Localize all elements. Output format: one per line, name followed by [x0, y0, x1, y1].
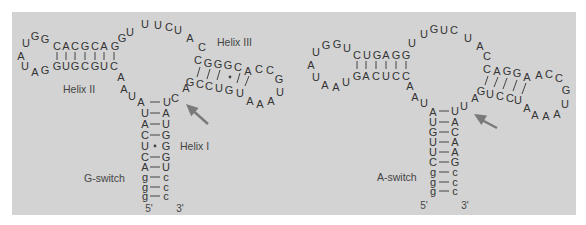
- a-switch-nucleotide: G: [322, 40, 331, 51]
- a-switch-nucleotide: U: [486, 89, 494, 100]
- g-switch-nucleotide: C: [194, 55, 202, 66]
- g-switch-nucleotide: C: [255, 64, 263, 75]
- g-switch-3prime-label: 3': [176, 203, 183, 214]
- g-switch-nucleotide: A: [120, 84, 127, 95]
- a-switch-nucleotide: C: [353, 50, 361, 61]
- a-switch-nucleotide: C: [392, 71, 400, 82]
- a-switch-5prime-label: 5': [420, 200, 427, 211]
- a-switch-nucleotide: A: [531, 110, 538, 121]
- a-switch-nucleotide: A: [471, 93, 478, 104]
- g-switch-nucleotide: C: [171, 93, 179, 104]
- g-switch-nucleotide: C: [53, 41, 61, 52]
- g-switch-nucleotide: U: [62, 61, 70, 72]
- a-switch-nucleotide: G: [503, 66, 512, 77]
- g-switch-nucleotide: U: [215, 83, 223, 94]
- a-switch-nucleotide: C: [450, 25, 458, 36]
- a-switch-nucleotide: U: [312, 72, 320, 83]
- g-switch-nucleotide: U: [236, 88, 244, 99]
- g-switch-nucleotide: G: [71, 61, 80, 72]
- g-switch-nucleotide: G: [275, 74, 284, 85]
- g-switch-nucleotide: C: [71, 41, 79, 52]
- a-switch-nucleotide: A: [523, 103, 530, 114]
- a-switch-nucleotide: C: [506, 93, 514, 104]
- a-switch-nucleotide: A: [411, 92, 418, 103]
- g-switch-nucleotide: A: [267, 96, 274, 107]
- g-switch-nucleotide: A: [117, 72, 124, 83]
- g-switch-nucleotide: U: [21, 61, 29, 72]
- g-switch-nucleotide: A: [31, 67, 38, 78]
- g-switch-nucleotide: U: [174, 25, 182, 36]
- a-switch-nucleotide: C: [496, 91, 504, 102]
- g-switch-nucleotide: C: [81, 61, 89, 72]
- g-switch-nucleotide: A: [244, 66, 251, 77]
- g-switch-nucleotide: A: [182, 83, 189, 94]
- a-switch-nucleotide: G: [333, 39, 342, 50]
- g-switch-nucleotide: g: [142, 191, 148, 202]
- a-switch-nucleotide: G: [353, 71, 362, 82]
- a-switch-nucleotide: C: [555, 73, 563, 84]
- a-switch-nucleotide: A: [382, 50, 389, 61]
- g-switch-nucleotide: A: [186, 33, 193, 44]
- g-switch-nucleotide: C: [198, 42, 206, 53]
- a-switch-nucleotide: C: [483, 51, 491, 62]
- helix-iii-label: Helix III: [217, 36, 252, 48]
- g-switch-nucleotide: G: [204, 58, 213, 69]
- a-switch-nucleotide: U: [420, 98, 428, 109]
- g-switch-nucleotide: C: [91, 41, 99, 52]
- g-switch-nucleotide: G: [31, 31, 40, 42]
- a-switch-nucleotide: U: [408, 38, 416, 49]
- a-switch-nucleotide: C: [545, 69, 553, 80]
- g-switch-nucleotide: A: [62, 41, 69, 52]
- g-switch-nucleotide: A: [246, 96, 253, 107]
- g-switch-nucleotide: C: [196, 79, 204, 90]
- g-switch-nucleotide: G: [224, 60, 233, 71]
- a-switch-nucleotide: G: [373, 50, 382, 61]
- g-switch-label: G-switch: [84, 172, 125, 184]
- a-switch-label: A-switch: [377, 171, 417, 183]
- g-switch-nucleotide: U: [128, 91, 136, 102]
- a-switch-nucleotide: g: [430, 186, 436, 197]
- a-switch-nucleotide: A: [307, 60, 314, 71]
- a-switch-nucleotide: U: [342, 77, 350, 88]
- g-switch-nucleotide: c: [163, 191, 169, 202]
- g-switch-nucleotide: U: [154, 20, 162, 31]
- g-switch-nucleotide: A: [100, 41, 107, 52]
- g-switch-nucleotide: C: [165, 22, 173, 33]
- a-switch-nucleotide: U: [561, 99, 569, 110]
- g-switch-5prime-label: 5': [145, 203, 152, 214]
- a-switch-nucleotide: G: [402, 50, 411, 61]
- a-switch-nucleotide: U: [312, 47, 320, 58]
- g-switch-nucleotide: U: [126, 27, 134, 38]
- a-switch-nucleotide: c: [452, 186, 458, 197]
- g-switch-nucleotide: G: [41, 65, 50, 76]
- g-switch-nucleotide: U: [141, 19, 149, 30]
- g-switch-nucleotide: U: [22, 38, 30, 49]
- a-switch-nucleotide: A: [535, 70, 542, 81]
- g-switch-nucleotide: G: [91, 61, 100, 72]
- a-switch-nucleotide: A: [493, 66, 500, 77]
- a-switch-nucleotide: G: [513, 68, 522, 79]
- a-switch-nucleotide: G: [430, 24, 439, 35]
- a-switch-nucleotide: A: [542, 111, 549, 122]
- a-switch-nucleotide: U: [382, 71, 390, 82]
- a-switch-nucleotide: G: [562, 85, 571, 96]
- helix-ii-label: Helix II: [63, 83, 95, 95]
- helix-i-label: Helix I: [180, 140, 209, 152]
- a-switch-nucleotide: U: [343, 43, 351, 54]
- g-switch-nucleotide: A: [256, 99, 263, 110]
- g-switch-nucleotide: G: [225, 85, 234, 96]
- g-switch-nucleotide: G: [81, 41, 90, 52]
- a-switch-nucleotide: A: [332, 82, 339, 93]
- g-switch-nucleotide: C: [234, 62, 242, 73]
- g-switch-nucleotide: G: [214, 59, 223, 70]
- g-switch-nucleotide: U: [100, 61, 108, 72]
- a-switch-nucleotide: C: [372, 71, 380, 82]
- a-switch-nucleotide: A: [553, 109, 560, 120]
- g-switch-nucleotide: G: [118, 33, 127, 44]
- a-switch-nucleotide: A: [523, 72, 530, 83]
- a-switch-nucleotide: U: [363, 50, 371, 61]
- g-switch-nucleotide: G: [41, 34, 50, 45]
- a-switch-nucleotide: U: [464, 33, 472, 44]
- a-switch-3prime-label: 3': [461, 200, 468, 211]
- g-switch-nucleotide: C: [205, 81, 213, 92]
